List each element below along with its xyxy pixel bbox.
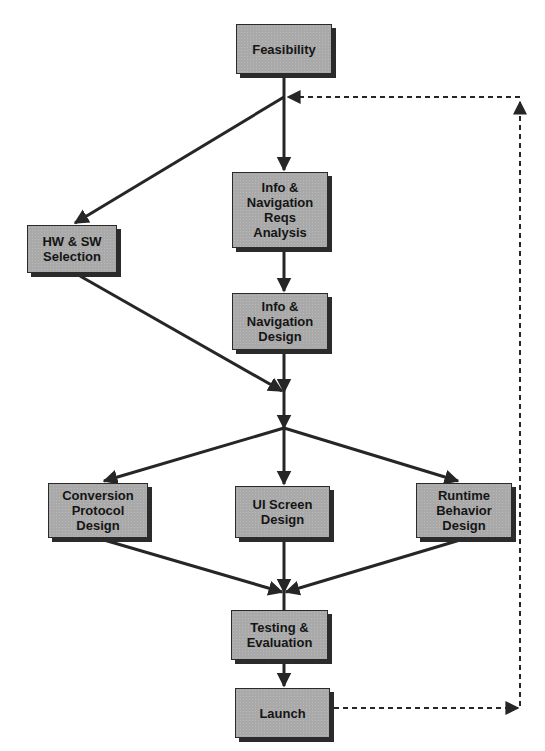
node-testing-evaluation[interactable]: Testing & Evaluation xyxy=(231,610,328,660)
node-info-nav-reqs-analysis[interactable]: Info & Navigation Reqs Analysis xyxy=(232,172,328,248)
edge-to-runtime xyxy=(284,428,458,481)
flowchart-diagram: Feasibility Info & Navigation Reqs Analy… xyxy=(0,0,545,751)
node-hw-sw-selection[interactable]: HW & SW Selection xyxy=(27,225,117,273)
node-label: Testing & Evaluation xyxy=(247,620,313,650)
node-label: Runtime Behavior Design xyxy=(436,488,492,533)
node-label: UI Screen Design xyxy=(253,497,313,527)
edge-conversion-to-testing xyxy=(104,540,282,592)
node-label: Info & Navigation Design xyxy=(247,299,313,344)
node-conversion-protocol-design[interactable]: Conversion Protocol Design xyxy=(48,483,148,538)
node-label: HW & SW Selection xyxy=(42,234,101,264)
node-feasibility[interactable]: Feasibility xyxy=(236,24,332,74)
edge-to-conversion xyxy=(104,428,284,481)
node-ui-screen-design[interactable]: UI Screen Design xyxy=(235,486,330,538)
node-info-nav-design[interactable]: Info & Navigation Design xyxy=(232,293,328,350)
node-launch[interactable]: Launch xyxy=(235,688,330,738)
node-label: Launch xyxy=(259,706,305,721)
node-label: Conversion Protocol Design xyxy=(62,488,134,533)
node-label: Info & Navigation Reqs Analysis xyxy=(247,180,313,240)
node-label: Feasibility xyxy=(252,42,316,57)
node-runtime-behavior-design[interactable]: Runtime Behavior Design xyxy=(416,483,512,538)
edge-runtime-to-testing xyxy=(286,540,460,592)
